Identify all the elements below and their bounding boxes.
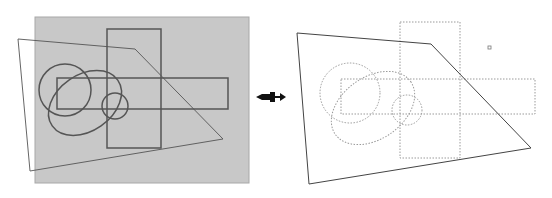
- small-circle-dotted: [392, 95, 422, 125]
- small-marker: [488, 46, 491, 49]
- clip-polygon-solid: [297, 33, 531, 184]
- source-shapes-group: [18, 17, 249, 183]
- wide-rectangle-dotted: [341, 79, 535, 114]
- diagram-canvas: [0, 0, 552, 198]
- rotated-ellipse-dotted: [318, 56, 429, 160]
- gray-background-panel: [35, 17, 249, 183]
- arrow-right-icon: [256, 92, 286, 102]
- result-shapes-group: [297, 22, 535, 184]
